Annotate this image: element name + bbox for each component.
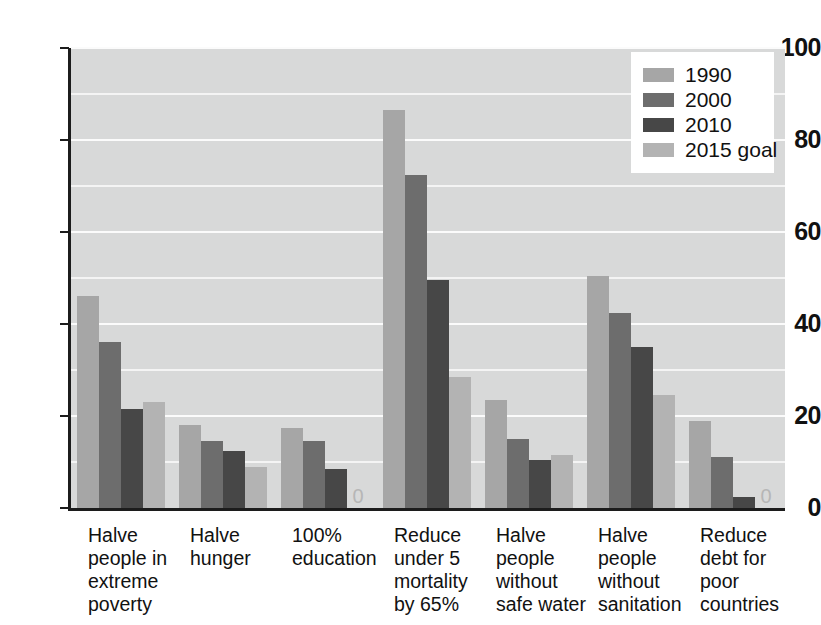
bar-chart: 020406080100 00 1990200020102015 goal Ha…: [0, 0, 821, 625]
x-axis-category-label-line: poverty: [88, 593, 167, 616]
bar-group: [485, 48, 573, 508]
bar: [733, 497, 755, 509]
x-axis-category-label-line: countries: [700, 593, 779, 616]
bar: [609, 313, 631, 509]
bar-group: 0: [281, 48, 369, 508]
x-axis-category-label: 100%education: [292, 524, 377, 570]
x-axis-category-label-line: education: [292, 547, 377, 570]
bar: [383, 110, 405, 508]
x-axis-category-label-line: people: [598, 547, 681, 570]
bar: [281, 428, 303, 509]
x-axis-category-labels: Halvepeople inextremepovertyHalvehunger1…: [68, 524, 782, 624]
bar: [529, 460, 551, 508]
bar: [77, 296, 99, 508]
x-axis-category-label: Reducedebt forpoorcountries: [700, 524, 779, 616]
x-axis-category-label-line: mortality: [394, 570, 468, 593]
x-axis-category-label-line: under 5: [394, 547, 468, 570]
legend-swatch-icon: [643, 68, 674, 82]
x-axis-category-label-line: Halve: [190, 524, 251, 547]
legend-item: 2010: [643, 112, 764, 137]
bar: [303, 441, 325, 508]
x-axis-category-label: Halvepeoplewithoutsanitation: [598, 524, 681, 616]
x-axis-category-label: Reduceunder 5mortalityby 65%: [394, 524, 468, 616]
bar: [405, 175, 427, 509]
x-axis-category-label: Halvehunger: [190, 524, 251, 570]
legend-swatch-icon: [643, 118, 674, 132]
x-axis-category-label-line: by 65%: [394, 593, 468, 616]
x-axis-category-label: Halvepeoplewithoutsafe water: [496, 524, 586, 616]
legend-item-label: 1990: [685, 64, 732, 85]
bar: [711, 457, 733, 508]
legend-swatch-icon: [643, 93, 674, 107]
legend-item: 2000: [643, 87, 764, 112]
bar: [485, 400, 507, 508]
x-axis-category-label-line: Halve: [598, 524, 681, 547]
x-axis-category-label: Halvepeople inextremepoverty: [88, 524, 167, 616]
bar: [653, 395, 675, 508]
bar: [143, 402, 165, 508]
bar: [427, 280, 449, 508]
bar-group: [77, 48, 165, 508]
x-axis-category-label-line: people in: [88, 547, 167, 570]
bar-zero-value-label: 0: [755, 486, 777, 506]
bar: [689, 421, 711, 508]
legend-item-label: 2000: [685, 89, 732, 110]
bar: [507, 439, 529, 508]
chart-legend: 1990200020102015 goal: [631, 52, 774, 173]
bar-zero-value-label: 0: [347, 486, 369, 506]
x-axis-category-label-line: Halve: [496, 524, 586, 547]
bar: [201, 441, 223, 508]
x-axis-category-label-line: without: [598, 570, 681, 593]
bar: [587, 276, 609, 508]
x-axis-category-label-line: safe water: [496, 593, 586, 616]
legend-item-label: 2010: [685, 114, 732, 135]
bar: [325, 469, 347, 508]
x-axis-category-label-line: poor: [700, 570, 779, 593]
bar: [121, 409, 143, 508]
bar-group: [179, 48, 267, 508]
x-axis-category-label-line: without: [496, 570, 586, 593]
x-axis-category-label-line: debt for: [700, 547, 779, 570]
bar: [449, 377, 471, 508]
x-axis-category-label-line: hunger: [190, 547, 251, 570]
bar: [631, 347, 653, 508]
x-axis-category-label-line: sanitation: [598, 593, 681, 616]
x-axis-category-label-line: Reduce: [700, 524, 779, 547]
bar: [99, 342, 121, 508]
bar: [245, 467, 267, 508]
legend-item: 1990: [643, 62, 764, 87]
legend-item-label: 2015 goal: [685, 139, 777, 160]
legend-swatch-icon: [643, 143, 674, 157]
bar-group: [383, 48, 471, 508]
x-axis-category-label-line: Reduce: [394, 524, 468, 547]
bar: [551, 455, 573, 508]
bar: [179, 425, 201, 508]
x-axis-category-label-line: Halve: [88, 524, 167, 547]
x-axis-category-label-line: 100%: [292, 524, 377, 547]
bar: [223, 451, 245, 509]
x-axis-category-label-line: extreme: [88, 570, 167, 593]
x-axis-category-label-line: people: [496, 547, 586, 570]
legend-item: 2015 goal: [643, 137, 764, 162]
